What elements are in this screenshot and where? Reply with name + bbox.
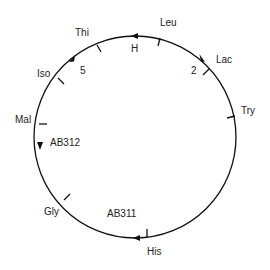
- gene-label-leu: Leu: [160, 18, 177, 28]
- strain-label-ab312: AB312: [50, 138, 80, 148]
- gene-label-lac: Lac: [216, 55, 232, 65]
- gene-label-try: Try: [241, 106, 255, 116]
- tick-iso: [58, 78, 64, 84]
- strain-label-ab311: AB311: [107, 209, 136, 219]
- strain-label-5: 5: [80, 66, 86, 76]
- arrow-h-icon: [131, 33, 138, 39]
- strain-label-2: 2: [191, 66, 197, 76]
- arrow-ab311-icon: [133, 235, 140, 241]
- genetic-map-circle: [0, 0, 270, 270]
- strain-label-h: H: [131, 44, 138, 54]
- gene-label-thi: Thi: [75, 28, 89, 38]
- gene-label-gly: Gly: [44, 207, 59, 217]
- gene-label-mal: Mal: [15, 115, 31, 125]
- tick-gly: [64, 194, 70, 200]
- arrow-2-icon: [198, 54, 206, 62]
- gene-label-his: His: [147, 247, 161, 257]
- gene-label-iso: Iso: [37, 69, 50, 79]
- tick-thi: [97, 45, 101, 52]
- tick-lac: [203, 69, 209, 75]
- arrow-ab312-icon: [37, 142, 43, 150]
